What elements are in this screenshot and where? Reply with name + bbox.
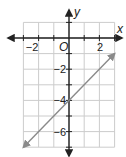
x-axis-label: x (116, 22, 124, 36)
y-tick-label-neg4: −4 (53, 94, 66, 106)
y-tick-label-neg2: −2 (53, 63, 66, 75)
y-tick-label-neg6: −6 (53, 126, 66, 138)
origin-label: O (59, 40, 68, 54)
x-tick-label-2: 2 (97, 41, 103, 53)
y-axis-label: y (73, 5, 81, 19)
coordinate-graph: x y O −2 2 −2 −4 −6 (0, 0, 126, 157)
x-tick-label-neg2: −2 (26, 41, 39, 53)
